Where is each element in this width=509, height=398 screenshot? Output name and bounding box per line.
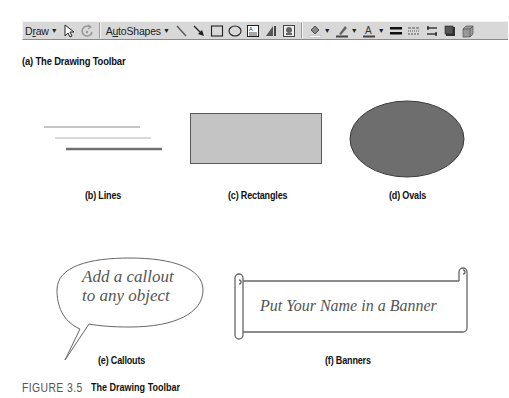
caption-rectangles: (c) Rectangles xyxy=(228,189,287,201)
callout-text-line-2: to any object xyxy=(82,286,174,305)
rectangle-sample xyxy=(191,114,322,164)
lines-sample xyxy=(44,127,162,149)
caption-callouts: (e) Callouts xyxy=(98,354,145,366)
caption-banners: (f) Banners xyxy=(325,354,371,366)
caption-lines: (b) Lines xyxy=(85,189,121,201)
figure-title: The Drawing Toolbar xyxy=(91,381,180,393)
callout-text: Add a callout to any object xyxy=(82,267,174,305)
caption-ovals: (d) Ovals xyxy=(389,189,426,201)
callout-text-line-1: Add a callout xyxy=(82,267,174,286)
figure-number: FIGURE 3.5 xyxy=(22,380,83,395)
banner-text: Put Your Name in a Banner xyxy=(260,297,437,315)
oval-sample xyxy=(350,101,464,177)
